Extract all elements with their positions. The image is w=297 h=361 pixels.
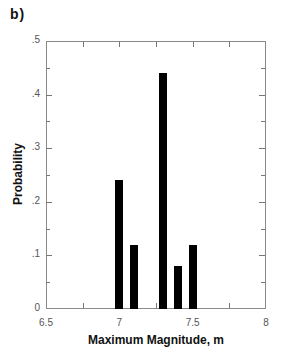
x-tick-top — [229, 42, 230, 47]
y-tick-label: .4 — [20, 88, 40, 99]
y-tick-label: 0 — [20, 302, 40, 313]
y-tick-right — [259, 255, 265, 256]
y-tick-left — [46, 175, 50, 176]
x-tick-label: 7 — [104, 317, 134, 328]
bar-m-7.3 — [159, 73, 167, 309]
y-tick-right — [261, 175, 265, 176]
y-tick-right — [259, 148, 265, 149]
y-tick-left — [46, 229, 50, 230]
y-tick-left — [46, 95, 52, 96]
y-tick-left — [46, 255, 52, 256]
bar-m-7.4 — [174, 266, 182, 309]
plot-area — [46, 41, 266, 309]
x-tick-label: 6.5 — [31, 317, 61, 328]
y-tick-label: .1 — [20, 248, 40, 259]
panel-label: b) — [10, 6, 25, 22]
y-tick-right — [261, 229, 265, 230]
x-axis-title: Maximum Magnitude, m — [46, 333, 266, 347]
y-tick-label: .3 — [20, 141, 40, 152]
y-tick-left — [46, 282, 50, 283]
x-tick-bottom — [83, 303, 84, 308]
y-tick-left — [46, 68, 50, 69]
x-tick-label: 7.5 — [178, 317, 208, 328]
x-tick-bottom — [229, 303, 230, 308]
y-tick-left — [46, 202, 52, 203]
bar-m-7.1 — [130, 245, 138, 309]
y-tick-label: .2 — [20, 195, 40, 206]
y-tick-right — [261, 68, 265, 69]
y-tick-left — [46, 148, 52, 149]
x-tick-bottom — [156, 303, 157, 308]
x-tick-label: 8 — [251, 317, 281, 328]
y-tick-right — [259, 202, 265, 203]
bar-m-7.0 — [115, 180, 123, 309]
x-tick-top — [193, 42, 194, 47]
y-tick-right — [259, 95, 265, 96]
x-tick-top — [119, 42, 120, 47]
y-tick-right — [261, 282, 265, 283]
y-tick-label: .5 — [20, 34, 40, 45]
y-tick-right — [261, 121, 265, 122]
y-tick-left — [46, 121, 50, 122]
x-tick-top — [83, 42, 84, 47]
x-tick-top — [156, 42, 157, 47]
bar-m-7.5 — [189, 245, 197, 309]
